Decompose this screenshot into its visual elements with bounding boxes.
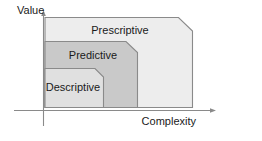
x-axis-arrowhead xyxy=(210,108,216,113)
y-axis-label: Value xyxy=(17,4,44,16)
prescriptive-label: Prescriptive xyxy=(91,24,148,36)
diagram-canvas: Prescriptive Predictive Descriptive Valu… xyxy=(0,0,262,141)
tier-descriptive: Descriptive xyxy=(45,69,104,108)
x-axis-label: Complexity xyxy=(142,115,197,127)
descriptive-label: Descriptive xyxy=(46,81,100,93)
predictive-label: Predictive xyxy=(69,49,117,61)
x-axis xyxy=(14,108,216,113)
analytics-maturity-diagram: Prescriptive Predictive Descriptive Valu… xyxy=(0,0,262,141)
